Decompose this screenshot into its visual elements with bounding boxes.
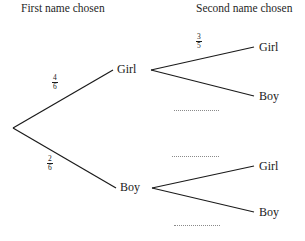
probability-root-to-girl: 4 6 bbox=[52, 74, 58, 91]
branch-girl-to-girl bbox=[151, 47, 254, 70]
branch-root-to-girl bbox=[13, 70, 113, 128]
probability-tree-diagram: First name chosen Second name chosen Gir… bbox=[0, 0, 305, 241]
fraction-numerator: 2 bbox=[47, 155, 53, 163]
probability-blank-boy-to-boy[interactable] bbox=[174, 225, 220, 226]
branch-boy-to-boy bbox=[152, 188, 254, 212]
branch-root-to-boy bbox=[13, 128, 116, 188]
fraction-denominator: 6 bbox=[52, 82, 58, 91]
fraction-denominator: 5 bbox=[196, 41, 202, 50]
probability-root-to-boy: 2 6 bbox=[47, 155, 53, 172]
probability-blank-boy-to-girl[interactable] bbox=[172, 156, 219, 157]
branch-boy-to-girl bbox=[152, 166, 254, 188]
probability-girl-to-girl: 3 5 bbox=[196, 33, 202, 50]
node-first-girl: Girl bbox=[117, 63, 136, 75]
fraction-denominator: 6 bbox=[47, 163, 53, 172]
fraction-numerator: 4 bbox=[52, 74, 58, 82]
node-second-girl-girl: Girl bbox=[259, 41, 278, 53]
node-second-boy-girl: Girl bbox=[259, 160, 278, 172]
branch-girl-to-boy bbox=[151, 70, 254, 96]
probability-blank-girl-to-boy[interactable] bbox=[174, 110, 219, 111]
node-first-boy: Boy bbox=[120, 181, 140, 193]
node-second-girl-boy: Boy bbox=[259, 90, 279, 102]
fraction-numerator: 3 bbox=[196, 33, 202, 41]
node-second-boy-boy: Boy bbox=[259, 206, 279, 218]
